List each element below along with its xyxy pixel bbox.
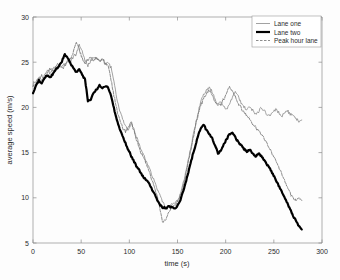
legend-label-lane-two: Lane two bbox=[274, 29, 301, 36]
x-axis-title: time (s) bbox=[165, 259, 191, 268]
y-tick-label: 15 bbox=[21, 149, 29, 156]
y-tick-label: 30 bbox=[21, 14, 29, 21]
x-tick-label: 200 bbox=[220, 248, 232, 255]
chart-figure: 050100150200250300 51015202530 time (s) … bbox=[0, 0, 340, 280]
x-tick-label: 250 bbox=[268, 248, 280, 255]
x-tick-label: 0 bbox=[31, 248, 35, 255]
y-axis-title: average speed (m/s) bbox=[5, 95, 14, 164]
legend-label-peak-hour-lane: Peak hour lane bbox=[274, 37, 318, 44]
x-tick-label: 300 bbox=[316, 248, 328, 255]
y-tick-label: 25 bbox=[21, 59, 29, 66]
x-tick-label: 50 bbox=[77, 248, 85, 255]
y-tick-label: 5 bbox=[25, 240, 29, 247]
x-tick-label: 100 bbox=[123, 248, 135, 255]
y-tick-label: 20 bbox=[21, 104, 29, 111]
legend-label-lane-one: Lane one bbox=[274, 20, 301, 27]
y-tick-label: 10 bbox=[21, 194, 29, 201]
x-tick-label: 150 bbox=[172, 248, 184, 255]
line-chart: 050100150200250300 51015202530 time (s) … bbox=[0, 0, 340, 280]
chart-legend[interactable]: Lane one Lane two Peak hour lane bbox=[252, 16, 321, 47]
